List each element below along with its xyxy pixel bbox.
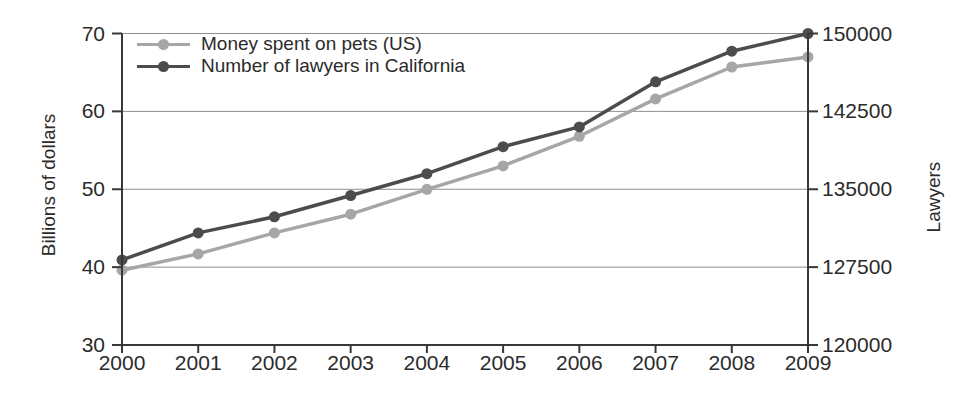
left-tick-label-70: 70 (82, 22, 105, 45)
legend-label-pets: Money spent on pets (US) (201, 33, 422, 55)
x-tick-label-2007: 2007 (632, 351, 679, 374)
pets-point-2007 (650, 93, 661, 104)
pets-point-2003 (345, 209, 356, 220)
lawyers-point-2007 (650, 76, 661, 87)
legend-label-lawyers: Number of lawyers in California (201, 55, 465, 77)
pets-point-2005 (498, 160, 509, 171)
right-tick-label-142500: 142500 (822, 99, 892, 122)
lawyers-point-2008 (726, 46, 737, 57)
right-axis-title: Lawyers (923, 162, 945, 233)
left-tick-label-40: 40 (82, 255, 105, 278)
lawyers-point-2004 (421, 168, 432, 179)
x-tick-label-2004: 2004 (404, 351, 451, 374)
pets-point-2008 (726, 62, 737, 73)
left-tick-label-50: 50 (82, 177, 105, 200)
pets-point-2001 (193, 248, 204, 259)
left-axis-title: Billions of dollars (38, 114, 60, 257)
right-tick-label-150000: 150000 (822, 22, 892, 45)
x-tick-label-2000: 2000 (99, 351, 146, 374)
legend-item-lawyers: Number of lawyers in California (137, 55, 465, 77)
x-tick-label-2003: 2003 (327, 351, 374, 374)
chart-figure: 3040506070120000127500135000142500150000… (0, 0, 973, 398)
right-tick-label-127500: 127500 (822, 255, 892, 278)
x-tick-label-2008: 2008 (708, 351, 755, 374)
pets-line (122, 57, 808, 270)
lawyers-point-2003 (345, 190, 356, 201)
right-tick-label-135000: 135000 (822, 177, 892, 200)
legend: Money spent on pets (US) Number of lawye… (137, 33, 465, 77)
axes (112, 34, 818, 354)
left-tick-label-60: 60 (82, 99, 105, 122)
pets-point-2004 (421, 184, 432, 195)
legend-line-sample-pets (137, 43, 190, 46)
lawyers-point-2006 (574, 121, 585, 132)
legend-marker-lawyers-icon (158, 61, 169, 72)
legend-line-sample-lawyers (137, 65, 190, 68)
x-tick-label-2001: 2001 (175, 351, 222, 374)
pets-point-2002 (269, 227, 280, 238)
x-tick-label-2006: 2006 (556, 351, 603, 374)
lawyers-point-2001 (193, 227, 204, 238)
lawyers-point-2005 (498, 141, 509, 152)
legend-item-pets: Money spent on pets (US) (137, 33, 465, 55)
x-tick-label-2009: 2009 (785, 351, 832, 374)
legend-marker-pets-icon (158, 39, 169, 50)
lawyers-point-2002 (269, 211, 280, 222)
x-tick-label-2002: 2002 (251, 351, 298, 374)
pets-point-2006 (574, 131, 585, 142)
right-tick-label-120000: 120000 (822, 333, 892, 356)
x-tick-label-2005: 2005 (480, 351, 527, 374)
